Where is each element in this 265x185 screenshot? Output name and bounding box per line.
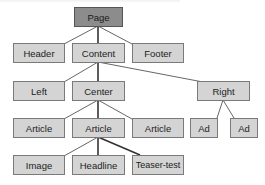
- node-label: Page: [87, 12, 109, 23]
- node-label: Teaser-test: [136, 160, 181, 170]
- edge-page-header: [64, 26, 98, 44]
- node-footer: Footer: [132, 43, 184, 63]
- node-label: Left: [31, 86, 47, 97]
- edge-right-ad2: [223, 100, 234, 118]
- node-ad-2: Ad: [230, 118, 258, 138]
- node-label: Article: [26, 123, 52, 134]
- node-left: Left: [13, 81, 65, 101]
- node-teaser-test: Teaser-test: [132, 155, 184, 175]
- edge-article-image: [64, 137, 98, 156]
- node-label: Header: [23, 48, 54, 59]
- node-label: Right: [212, 86, 234, 97]
- node-right: Right: [197, 81, 250, 101]
- node-label: Ad: [238, 123, 250, 134]
- edge-center-article3: [98, 100, 132, 119]
- node-label: Headline: [80, 160, 118, 171]
- node-article-1: Article: [13, 118, 65, 138]
- node-label: Footer: [144, 48, 171, 59]
- node-page: Page: [74, 7, 123, 27]
- node-headline: Headline: [72, 155, 125, 175]
- node-header: Header: [13, 43, 65, 63]
- edge-content-right: [98, 62, 203, 82]
- node-article-2: Article: [72, 118, 125, 138]
- edge-center-article1: [64, 100, 98, 119]
- node-ad-1: Ad: [190, 118, 218, 138]
- node-label: Article: [145, 123, 171, 134]
- edge-article-teaser: [98, 137, 140, 155]
- node-image: Image: [13, 155, 65, 175]
- tree-diagram: Page Header Content Footer Left Center R…: [0, 0, 265, 185]
- edge-page-footer: [98, 26, 132, 44]
- node-label: Ad: [198, 123, 210, 134]
- node-label: Article: [85, 123, 111, 134]
- node-content: Content: [72, 43, 125, 63]
- node-article-3: Article: [132, 118, 184, 138]
- node-center: Center: [72, 81, 125, 101]
- node-label: Center: [84, 86, 113, 97]
- edge-content-left: [64, 62, 98, 82]
- node-label: Image: [26, 160, 52, 171]
- edge-right-ad1: [217, 100, 223, 118]
- node-label: Content: [82, 48, 115, 59]
